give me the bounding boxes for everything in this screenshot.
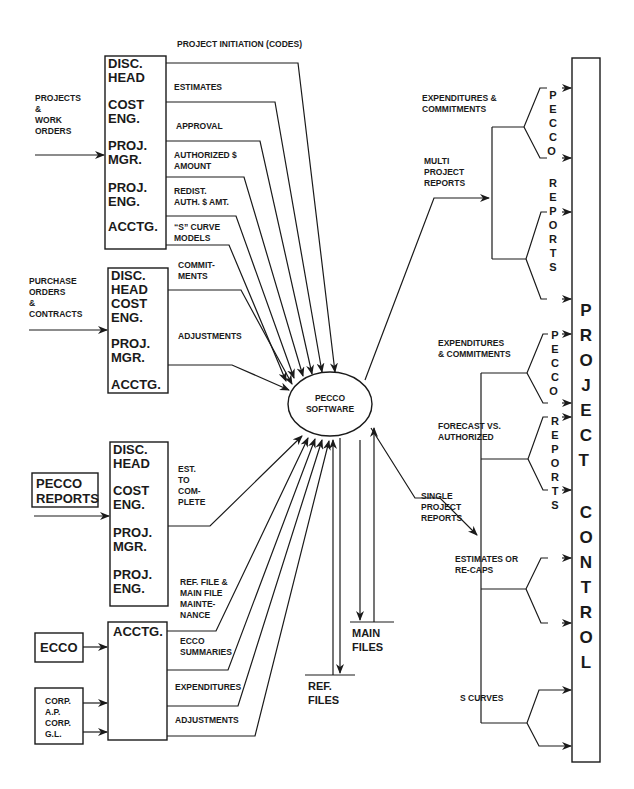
svg-text:CONTRACTS: CONTRACTS bbox=[29, 309, 83, 319]
svg-text:PROJ.: PROJ. bbox=[113, 567, 152, 582]
svg-text:AUTH. $ AMT.: AUTH. $ AMT. bbox=[174, 197, 229, 207]
svg-text:EXPENDITURES: EXPENDITURES bbox=[438, 338, 504, 348]
svg-text:AUTHORIZED $: AUTHORIZED $ bbox=[174, 150, 237, 160]
svg-text:PROJ.: PROJ. bbox=[113, 525, 152, 540]
svg-text:REPORTS: REPORTS bbox=[421, 513, 462, 523]
box4-flow-labels: ECCO SUMMARIES EXPENDITURES ADJUSTMENTS bbox=[175, 636, 241, 725]
role-acctg: ACCTG. bbox=[108, 219, 158, 234]
svg-text:PROJECT: PROJECT bbox=[421, 502, 462, 512]
svg-text:PROJECTS: PROJECTS bbox=[35, 93, 81, 103]
multi-vertical-label: PECCO REPORTS bbox=[547, 89, 559, 273]
svg-text:SINGLE: SINGLE bbox=[421, 491, 453, 501]
multi-project-reports: MULTI PROJECT REPORTS EXPENDITURES & COM… bbox=[365, 88, 571, 380]
svg-text:RE-CAPS: RE-CAPS bbox=[455, 565, 494, 575]
ref-files: REF. FILES bbox=[305, 438, 355, 706]
svg-text:ECCO: ECCO bbox=[40, 640, 78, 655]
svg-text:REF. FILE &: REF. FILE & bbox=[180, 577, 228, 587]
svg-text:SUMMARIES: SUMMARIES bbox=[180, 647, 232, 657]
svg-text:G.L.: G.L. bbox=[45, 729, 62, 739]
center-label-1: PECCO bbox=[315, 393, 346, 403]
role-proj: PROJ. bbox=[108, 138, 147, 153]
svg-text:CORP.: CORP. bbox=[45, 696, 71, 706]
svg-text:ACCTG.: ACCTG. bbox=[111, 377, 161, 392]
single-vertical-label: PECCO REPORTS bbox=[549, 329, 561, 511]
svg-text:COST: COST bbox=[113, 483, 149, 498]
role-disc: DISC. bbox=[108, 56, 143, 71]
svg-text:MAIN FILE: MAIN FILE bbox=[180, 588, 223, 598]
svg-text:“S” CURVE: “S” CURVE bbox=[174, 222, 220, 232]
input-projects-work-orders: PROJECTS & WORK ORDERS bbox=[35, 93, 104, 155]
svg-text:ADJUSTMENTS: ADJUSTMENTS bbox=[175, 715, 239, 725]
role-eng2: ENG. bbox=[108, 194, 140, 209]
svg-text:MGR.: MGR. bbox=[113, 539, 147, 554]
svg-text:REPORTS: REPORTS bbox=[424, 178, 465, 188]
svg-text:EST.: EST. bbox=[178, 464, 196, 474]
svg-text:ENG.: ENG. bbox=[113, 581, 145, 596]
svg-text:FORECAST VS.: FORECAST VS. bbox=[438, 421, 501, 431]
svg-text:S CURVES: S CURVES bbox=[460, 693, 504, 703]
box-accounting bbox=[108, 622, 167, 740]
svg-text:COMMITMENTS: COMMITMENTS bbox=[422, 104, 487, 114]
svg-text:APPROVAL: APPROVAL bbox=[176, 121, 223, 131]
svg-text:ECCO: ECCO bbox=[180, 636, 205, 646]
input-ecco: ECCO bbox=[35, 633, 107, 662]
svg-text:A.P.: A.P. bbox=[45, 707, 60, 717]
svg-text:ENG.: ENG. bbox=[111, 310, 143, 325]
svg-text:ORDERS: ORDERS bbox=[29, 287, 66, 297]
svg-text:ESTIMATES OR: ESTIMATES OR bbox=[455, 554, 518, 564]
role-proj2: PROJ. bbox=[108, 180, 147, 195]
svg-text:COST: COST bbox=[111, 296, 147, 311]
svg-text:EXPENDITURES: EXPENDITURES bbox=[175, 682, 241, 692]
svg-text:&: & bbox=[29, 298, 35, 308]
svg-text:PROJECT: PROJECT bbox=[424, 167, 465, 177]
box2-flow-labels: COMMIT- MENTS ADJUSTMENTS bbox=[178, 260, 242, 341]
role-acctg-4: ACCTG. bbox=[113, 624, 163, 639]
svg-text:MENTS: MENTS bbox=[178, 271, 208, 281]
svg-text:FILES: FILES bbox=[352, 641, 383, 653]
svg-text:& COMMITMENTS: & COMMITMENTS bbox=[438, 349, 511, 359]
svg-text:PURCHASE: PURCHASE bbox=[29, 276, 77, 286]
svg-text:TO: TO bbox=[178, 475, 190, 485]
svg-text:ESTIMATES: ESTIMATES bbox=[174, 82, 222, 92]
svg-text:REPORTS: REPORTS bbox=[36, 491, 99, 506]
input-corp: CORP. A.P. CORP. G.L. bbox=[35, 688, 107, 744]
center-label-2: SOFTWARE bbox=[306, 404, 354, 414]
svg-text:AMOUNT: AMOUNT bbox=[174, 161, 212, 171]
svg-text:COMMIT-: COMMIT- bbox=[178, 260, 215, 270]
pecco-data-flow-diagram: DISC. HEAD COST ENG. PROJ. MGR. PROJ. AC… bbox=[0, 0, 634, 789]
svg-text:PLETE: PLETE bbox=[178, 497, 206, 507]
svg-text:HEAD: HEAD bbox=[113, 456, 150, 471]
svg-text:PECCO: PECCO bbox=[36, 476, 82, 491]
svg-text:MAIN: MAIN bbox=[352, 627, 380, 639]
svg-text:&: & bbox=[35, 104, 41, 114]
svg-text:REDIST.: REDIST. bbox=[174, 186, 207, 196]
svg-text:ORDERS: ORDERS bbox=[35, 126, 72, 136]
svg-text:ADJUSTMENTS: ADJUSTMENTS bbox=[178, 331, 242, 341]
svg-text:FILES: FILES bbox=[308, 694, 339, 706]
svg-text:AUTHORIZED: AUTHORIZED bbox=[438, 432, 494, 442]
single-project-reports: SINGLE PROJECT REPORTS EXPENDITURES & CO… bbox=[371, 329, 571, 746]
svg-text:MGR.: MGR. bbox=[111, 350, 145, 365]
role-head: HEAD bbox=[108, 70, 145, 85]
svg-text:MODELS: MODELS bbox=[174, 233, 211, 243]
svg-text:REF.: REF. bbox=[308, 680, 332, 692]
role-mgr: MGR. bbox=[108, 152, 142, 167]
svg-text:CORP.: CORP. bbox=[45, 718, 71, 728]
svg-text:PROJ.: PROJ. bbox=[111, 336, 150, 351]
svg-text:MAINTE-: MAINTE- bbox=[180, 599, 216, 609]
svg-text:COM-: COM- bbox=[178, 486, 201, 496]
role-eng: ENG. bbox=[108, 111, 140, 126]
svg-text:MULTI: MULTI bbox=[424, 156, 449, 166]
input-purchase-orders: PURCHASE ORDERS & CONTRACTS bbox=[29, 276, 107, 330]
input-pecco-reports: PECCO REPORTS bbox=[32, 473, 109, 516]
svg-text:WORK: WORK bbox=[35, 115, 63, 125]
role-cost: COST bbox=[108, 97, 144, 112]
svg-text:ENG.: ENG. bbox=[113, 497, 145, 512]
svg-text:NANCE: NANCE bbox=[180, 610, 211, 620]
svg-text:HEAD: HEAD bbox=[111, 282, 148, 297]
box3-flow-labels: EST. TO COM- PLETE REF. FILE & MAIN FILE… bbox=[178, 464, 228, 620]
svg-text:PROJECT INITIATION (CODES): PROJECT INITIATION (CODES) bbox=[177, 39, 302, 49]
svg-text:DISC.: DISC. bbox=[113, 442, 148, 457]
main-files: MAIN FILES bbox=[350, 428, 394, 653]
svg-text:DISC.: DISC. bbox=[111, 268, 146, 283]
